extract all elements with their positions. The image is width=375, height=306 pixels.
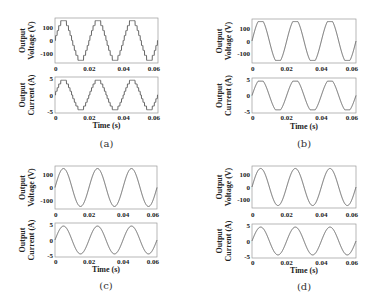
x-tick-label: 0.04 bbox=[117, 211, 130, 219]
x-tick-label: 0.04 bbox=[118, 65, 131, 73]
x-axis-label: Time (s) bbox=[92, 121, 120, 130]
x-tick-label: 0.04 bbox=[315, 211, 328, 219]
y-tick-label: 100 bbox=[240, 171, 251, 179]
y-axis-label: OutputVoltage (V) bbox=[18, 21, 36, 60]
y-tick-label: 0 bbox=[247, 38, 251, 46]
waveform-line bbox=[55, 80, 158, 109]
y-tick-label: -100 bbox=[237, 196, 250, 204]
waveform-line bbox=[252, 22, 356, 61]
x-tick-label: 0 bbox=[54, 65, 58, 73]
x-tick-label: 0 bbox=[251, 259, 255, 267]
y-tick-label: -5 bbox=[244, 253, 250, 261]
waveform-line bbox=[55, 21, 158, 61]
current-subplot: 50-500.020.040.06OutputCurrent (A) bbox=[215, 75, 359, 122]
waveform-line bbox=[252, 227, 356, 255]
x-tick-label: 0 bbox=[54, 258, 58, 266]
panel-caption: (d) bbox=[297, 281, 311, 292]
y-tick-label: 5 bbox=[50, 75, 54, 83]
y-tick-label: 5 bbox=[50, 221, 54, 229]
x-tick-label: 0 bbox=[251, 65, 255, 73]
x-tick-label: 0.02 bbox=[83, 211, 96, 219]
panel-caption: (a) bbox=[100, 138, 114, 149]
x-tick-label: 0.02 bbox=[281, 65, 294, 73]
waveform-line bbox=[252, 168, 356, 205]
y-tick-label: 100 bbox=[43, 24, 54, 32]
y-axis-label: OutputCurrent (A) bbox=[18, 219, 36, 260]
panel-caption: (c) bbox=[99, 280, 113, 291]
y-tick-label: 100 bbox=[43, 171, 54, 179]
y-tick-label: -5 bbox=[244, 108, 250, 116]
voltage-subplot: 1000-10000.020.040.06OutputVoltage (V) bbox=[18, 18, 161, 73]
chart-panel-a: 1000-10000.020.040.06OutputVoltage (V)50… bbox=[18, 18, 161, 149]
y-tick-label: 0 bbox=[50, 184, 54, 192]
x-tick-label: 0 bbox=[251, 211, 255, 219]
y-tick-label: 100 bbox=[240, 25, 251, 33]
current-subplot: 50-500.020.040.06OutputCurrent (A) bbox=[18, 74, 161, 122]
chart-panel-c: 1000-10000.020.040.06OutputVoltage (V)50… bbox=[18, 166, 160, 291]
y-tick-label: -100 bbox=[40, 197, 53, 205]
x-tick-label: 0.06 bbox=[346, 211, 359, 219]
x-tick-label: 0 bbox=[54, 114, 58, 122]
y-tick-label: 0 bbox=[247, 238, 251, 246]
x-axis-label: Time (s) bbox=[290, 122, 318, 131]
x-tick-label: 0.02 bbox=[83, 65, 96, 73]
panel-caption: (b) bbox=[297, 138, 311, 149]
voltage-subplot: 1000-10000.020.040.06OutputVoltage (V) bbox=[215, 19, 359, 73]
y-axis-label: OutputVoltage (V) bbox=[215, 21, 233, 60]
x-tick-label: 0 bbox=[54, 211, 58, 219]
y-tick-label: -100 bbox=[40, 50, 53, 58]
voltage-subplot: 1000-10000.020.040.06OutputVoltage (V) bbox=[18, 166, 160, 219]
x-tick-label: 0.06 bbox=[147, 211, 160, 219]
y-tick-label: 0 bbox=[50, 37, 54, 45]
figure-canvas: 1000-10000.020.040.06OutputVoltage (V)50… bbox=[0, 0, 375, 306]
chart-panel-b: 1000-10000.020.040.06OutputVoltage (V)50… bbox=[215, 19, 359, 149]
y-tick-label: 5 bbox=[247, 222, 251, 230]
y-tick-label: 5 bbox=[247, 76, 251, 84]
x-axis-label: Time (s) bbox=[92, 265, 120, 274]
y-axis-label: OutputCurrent (A) bbox=[215, 75, 233, 116]
current-subplot: 50-500.020.040.06OutputCurrent (A) bbox=[18, 219, 160, 266]
x-tick-label: 0.06 bbox=[346, 65, 359, 73]
x-axis-label: Time (s) bbox=[290, 266, 318, 275]
x-tick-label: 0.06 bbox=[148, 114, 161, 122]
y-tick-label: -5 bbox=[47, 252, 53, 260]
x-tick-label: 0 bbox=[251, 114, 255, 122]
y-axis-label: OutputCurrent (A) bbox=[215, 220, 233, 261]
y-tick-label: 0 bbox=[247, 92, 251, 100]
y-tick-label: 0 bbox=[247, 184, 251, 192]
x-tick-label: 0.06 bbox=[148, 65, 161, 73]
x-tick-label: 0.02 bbox=[281, 114, 294, 122]
current-subplot: 50-500.020.040.06OutputCurrent (A) bbox=[215, 220, 359, 267]
y-tick-label: 0 bbox=[50, 237, 54, 245]
y-tick-label: -5 bbox=[47, 108, 53, 116]
y-tick-label: -100 bbox=[237, 50, 250, 58]
voltage-subplot: 1000-10000.020.040.06OutputVoltage (V) bbox=[215, 166, 359, 219]
x-tick-label: 0.02 bbox=[281, 211, 294, 219]
x-tick-label: 0.06 bbox=[346, 114, 359, 122]
chart-panel-d: 1000-10000.020.040.06OutputVoltage (V)50… bbox=[215, 166, 359, 292]
x-tick-label: 0.06 bbox=[147, 258, 160, 266]
x-tick-label: 0.06 bbox=[346, 259, 359, 267]
y-axis-label: OutputVoltage (V) bbox=[18, 168, 36, 207]
x-tick-label: 0.04 bbox=[315, 65, 328, 73]
waveform-line bbox=[55, 169, 157, 207]
y-tick-label: 0 bbox=[50, 92, 54, 100]
x-tick-label: 0.04 bbox=[315, 114, 328, 122]
waveform-line bbox=[252, 81, 356, 110]
y-axis-label: OutputCurrent (A) bbox=[18, 74, 36, 115]
waveform-line bbox=[55, 226, 157, 254]
y-axis-label: OutputVoltage (V) bbox=[215, 167, 233, 206]
